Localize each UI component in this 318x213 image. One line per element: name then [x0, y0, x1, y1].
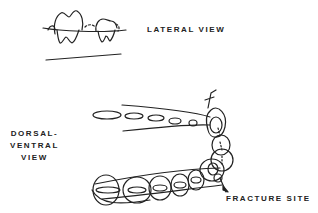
lateral-view-label: LATERAL VIEW — [147, 25, 225, 34]
fracture-site-label: FRACTURE SITE — [226, 194, 311, 203]
dorsal-ventral-line2: VENTRAL — [10, 140, 59, 152]
dorsal-ventral-line1: DORSAL- — [10, 128, 59, 140]
dorsal-ventral-jaw — [92, 90, 233, 205]
dorsal-ventral-view-label: DORSAL- VENTRAL VIEW — [10, 128, 59, 164]
lateral-view-baseline — [46, 54, 121, 60]
dorsal-ventral-line3: VIEW — [10, 152, 59, 164]
lateral-view-teeth — [43, 11, 126, 43]
